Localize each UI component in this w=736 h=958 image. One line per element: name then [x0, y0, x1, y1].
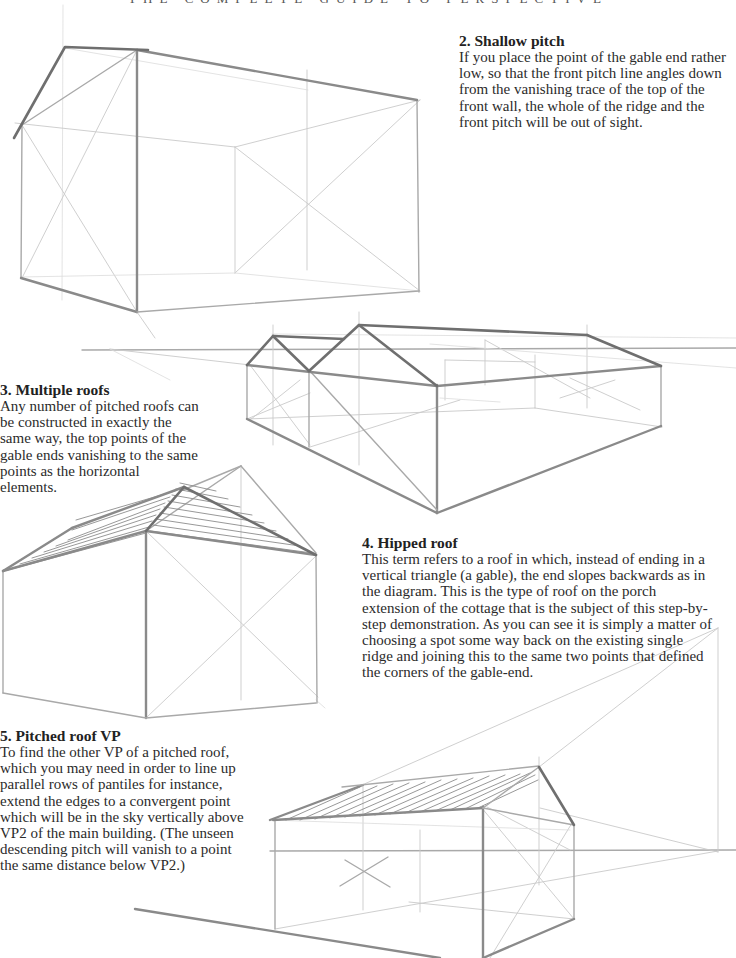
section-body: Any number of pitched roofs can be const…	[0, 398, 200, 495]
multiple-roofs-drawing	[247, 312, 736, 513]
section-heading: 4. Hipped roof	[362, 534, 717, 551]
section-body: To find the other VP of a pitched roof, …	[0, 744, 250, 874]
section-body: This term refers to a roof in which, ins…	[362, 551, 717, 681]
section-heading: 2. Shallow pitch	[459, 32, 729, 49]
section-body: If you place the point of the gable end …	[459, 49, 729, 130]
section-pitched-roof-vp: 5. Pitched roof VP To find the other VP …	[0, 727, 250, 874]
section-hipped-roof: 4. Hipped roof This term refers to a roo…	[362, 534, 717, 681]
section-multiple-roofs: 3. Multiple roofs Any number of pitched …	[0, 381, 200, 495]
section-shallow-pitch: 2. Shallow pitch If you place the point …	[459, 32, 729, 130]
shallow-pitch-drawing	[14, 5, 420, 338]
section-heading: 5. Pitched roof VP	[0, 727, 250, 744]
hipped-roof-drawing	[3, 466, 325, 718]
section-heading: 3. Multiple roofs	[0, 381, 200, 398]
